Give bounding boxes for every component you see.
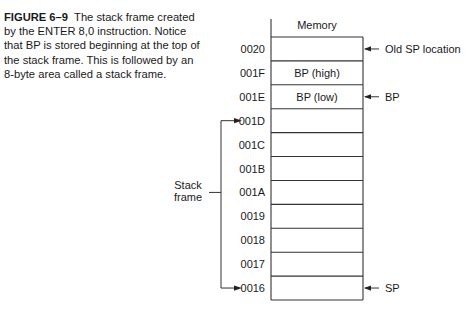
memory-cell-content: BP (high) bbox=[294, 67, 340, 79]
address-label: 0020 bbox=[241, 43, 265, 55]
address-label: 0017 bbox=[241, 258, 265, 270]
address-label: 0018 bbox=[241, 234, 265, 246]
pointer-label: SP bbox=[385, 282, 400, 294]
pointer-arrowhead-icon bbox=[364, 46, 371, 51]
stack-frame-label-line2: frame bbox=[174, 191, 202, 203]
memory-column-header: Memory bbox=[297, 19, 337, 31]
pointer-label: Old SP location bbox=[385, 43, 461, 55]
address-label: 001E bbox=[239, 91, 265, 103]
pointer-arrowhead-icon bbox=[364, 285, 371, 290]
pointer-arrowhead-icon bbox=[364, 94, 371, 99]
address-label: 001B bbox=[239, 163, 265, 175]
address-label: 0016 bbox=[241, 282, 265, 294]
memory-cell-content: BP (low) bbox=[296, 91, 337, 103]
pointer-label: BP bbox=[385, 91, 400, 103]
address-label: 001D bbox=[239, 115, 265, 127]
stack-frame-label-line1: Stack bbox=[174, 179, 202, 191]
address-label: 001F bbox=[240, 67, 265, 79]
memory-stack-diagram: Memory 0020001FBP (high)001EBP (low)001D… bbox=[0, 0, 476, 309]
address-label: 001A bbox=[239, 186, 265, 198]
address-label: 001C bbox=[239, 139, 265, 151]
address-label: 0019 bbox=[241, 210, 265, 222]
